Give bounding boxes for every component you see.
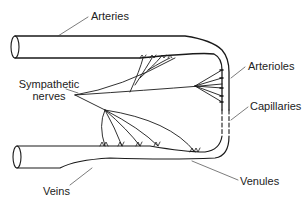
label-sympathetic-line1: Sympathetic bbox=[14, 78, 84, 90]
label-capillaries: Capillaries bbox=[250, 100, 301, 112]
label-venules: Venules bbox=[240, 175, 279, 187]
vascular-diagram: Arteries Arterioles Sympathetic nerves C… bbox=[0, 0, 305, 207]
label-veins: Veins bbox=[43, 185, 70, 197]
sympathetic-nerves bbox=[75, 58, 222, 152]
label-arteries: Arteries bbox=[91, 10, 129, 22]
label-sympathetic-nerves: Sympathetic nerves bbox=[14, 78, 84, 102]
capillaries bbox=[222, 110, 229, 136]
label-sympathetic-line2: nerves bbox=[14, 90, 84, 102]
label-arterioles: Arterioles bbox=[248, 60, 294, 72]
